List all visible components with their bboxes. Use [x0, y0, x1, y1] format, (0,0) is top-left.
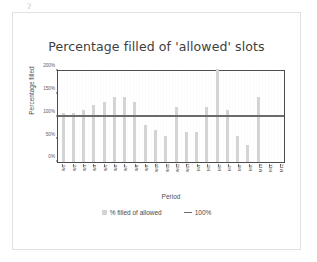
- y-tick-mark: [56, 138, 59, 139]
- x-label-slot: W3: [78, 164, 88, 190]
- legend-line-swatch-icon: [184, 212, 192, 214]
- legend-bar-swatch-icon: [102, 210, 107, 215]
- x-label-slot: M5: [202, 164, 212, 190]
- bar-W10: [154, 130, 157, 162]
- bar-W3: [82, 110, 85, 162]
- y-axis-title: Percentage filled: [28, 51, 35, 131]
- x-tick-label-M5: M5: [207, 165, 211, 171]
- chart-title: Percentage filled of 'allowed' slots: [13, 39, 300, 54]
- x-label-slot: W11: [161, 164, 171, 190]
- x-axis-title: Period: [57, 193, 285, 200]
- x-tick-label-M11: M11: [269, 164, 273, 172]
- x-label-slot: W7: [119, 164, 129, 190]
- chart-object-frame: Percentage filled of 'allowed' slots Per…: [12, 12, 301, 250]
- bar-slot: [243, 71, 253, 162]
- bar-slot: [202, 71, 212, 162]
- x-label-slot: M9: [243, 164, 253, 190]
- bar-W2: [72, 113, 75, 162]
- y-tick-mark: [56, 70, 59, 71]
- document-page: ʔ Percentage filled of 'allowed' slots P…: [0, 0, 317, 262]
- plot-area: 0%50%100%150%200%: [57, 70, 285, 163]
- x-label-slot: W2: [67, 164, 77, 190]
- legend-item[interactable]: % filled of allowed: [102, 209, 162, 216]
- bar-slot: [181, 71, 191, 162]
- bar-slot: [89, 71, 99, 162]
- x-label-slot: M10: [254, 164, 264, 190]
- bar-slot: [253, 71, 263, 162]
- bar-slot: [161, 71, 171, 162]
- x-tick-label-M9: M9: [249, 165, 253, 171]
- x-tick-label-M6: M6: [218, 165, 222, 171]
- x-label-slot: M11: [264, 164, 274, 190]
- x-label-slot: W10: [150, 164, 160, 190]
- x-tick-label-W4: W4: [93, 165, 97, 171]
- x-tick-label-W5: W5: [104, 165, 108, 171]
- x-tick-label-W13: W13: [186, 164, 190, 173]
- bar-W4: [92, 105, 95, 162]
- bar-M7: [226, 110, 229, 162]
- bar-slot: [120, 71, 130, 162]
- bar-W1: [62, 113, 65, 162]
- y-tick-mark: [56, 161, 59, 162]
- bar-W13: [185, 132, 188, 162]
- bar-M10: [257, 97, 260, 162]
- plot-inner: 0%50%100%150%200%: [58, 71, 284, 162]
- bar-slot: [150, 71, 160, 162]
- bar-slot: [99, 71, 109, 162]
- x-tick-label-M4: M4: [197, 165, 201, 171]
- x-label-slot: M8: [233, 164, 243, 190]
- x-label-slot: M7: [223, 164, 233, 190]
- x-label-slot: M6: [212, 164, 222, 190]
- scan-artifact-mark: ʔ: [27, 2, 37, 11]
- y-tick-label-200%: 200%: [43, 64, 55, 69]
- bar-M8: [236, 136, 239, 162]
- x-tick-label-W7: W7: [124, 165, 128, 171]
- x-tick-label-W11: W11: [166, 164, 170, 172]
- x-label-slot: W1: [57, 164, 67, 190]
- x-axis-labels: W1W2W3W4W5W6W7W8W9W10W11W12W13M4M5M6M7M8…: [57, 164, 285, 190]
- bar-slot: [109, 71, 119, 162]
- x-label-slot: W5: [98, 164, 108, 190]
- bar-slot: [212, 71, 222, 162]
- bar-W5: [103, 102, 106, 162]
- bar-W8: [133, 102, 136, 163]
- x-tick-label-M12: M12: [280, 164, 284, 172]
- bar-slot: [140, 71, 150, 162]
- legend-label: 100%: [195, 209, 212, 216]
- bar-slot: [191, 71, 201, 162]
- y-tick-label-100%: 100%: [43, 110, 55, 115]
- x-label-slot: W8: [130, 164, 140, 190]
- bar-slot: [274, 71, 284, 162]
- x-label-slot: W12: [171, 164, 181, 190]
- bar-W6: [113, 97, 116, 162]
- bar-W9: [144, 125, 147, 162]
- bar-M9: [246, 145, 249, 162]
- x-label-slot: W4: [88, 164, 98, 190]
- x-tick-label-W6: W6: [114, 165, 118, 171]
- bar-slot: [58, 71, 68, 162]
- bar-W7: [123, 97, 126, 162]
- bar-slot: [171, 71, 181, 162]
- y-tick-mark: [56, 92, 59, 93]
- x-tick-label-W9: W9: [145, 165, 149, 171]
- x-tick-label-M8: M8: [238, 165, 242, 171]
- bar-M4: [195, 132, 198, 162]
- bar-slot: [222, 71, 232, 162]
- legend-label: % filled of allowed: [110, 209, 162, 216]
- chart-legend: % filled of allowed100%: [13, 209, 300, 216]
- x-tick-label-M7: M7: [228, 165, 232, 171]
- x-tick-label-W12: W12: [176, 164, 180, 173]
- y-tick-label-50%: 50%: [46, 132, 55, 137]
- bar-slot: [233, 71, 243, 162]
- x-label-slot: W6: [109, 164, 119, 190]
- bar-W11: [164, 136, 167, 162]
- x-label-slot: M4: [192, 164, 202, 190]
- x-label-slot: W13: [181, 164, 191, 190]
- x-label-slot: W9: [140, 164, 150, 190]
- legend-item[interactable]: 100%: [184, 209, 212, 216]
- bar-slot: [68, 71, 78, 162]
- x-tick-label-M10: M10: [259, 164, 263, 172]
- bar-slot: [263, 71, 273, 162]
- x-tick-label-W10: W10: [155, 164, 159, 173]
- bar-series: [58, 71, 284, 162]
